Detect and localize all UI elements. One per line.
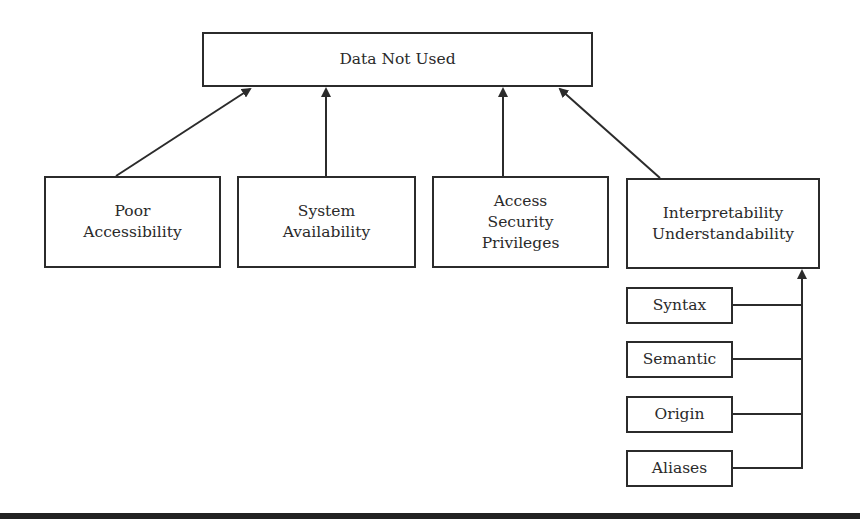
cause-node-system-availability: System Availability [237,176,416,268]
cause-node-poor-accessibility: Poor Accessibility [44,176,221,268]
subfactor-node-aliases: Aliases [626,450,733,487]
cause-label-line: Understandability [652,224,794,245]
subfactor-label: Syntax [653,295,707,316]
arrow-poor-accessibility [116,89,250,176]
root-node-data-not-used: Data Not Used [202,32,593,87]
subfactor-node-syntax: Syntax [626,287,733,324]
cause-label-line: System [283,201,371,222]
arrow-interpretability [560,89,660,178]
cause-label-line: Security [482,212,560,233]
subfactor-label: Origin [655,404,705,425]
subfactor-label: Semantic [643,349,717,370]
cause-label-line: Privileges [482,233,560,254]
cause-label-line: Availability [283,222,371,243]
cause-node-access-security-privileges: Access Security Privileges [432,176,609,268]
cause-label-line: Interpretability [652,203,794,224]
cause-label-line: Poor [83,201,181,222]
subfactor-node-origin: Origin [626,396,733,433]
cause-node-interpretability: Interpretability Understandability [626,178,820,269]
subfactor-label: Aliases [652,458,707,479]
cause-label-line: Access [482,191,560,212]
subfactor-node-semantic: Semantic [626,341,733,378]
cause-label-line: Accessibility [83,222,181,243]
root-label: Data Not Used [339,49,455,70]
bottom-divider-rule [0,513,860,519]
